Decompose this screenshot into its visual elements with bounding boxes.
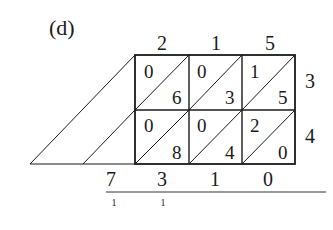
multiplier-digit: 4 bbox=[305, 125, 315, 147]
multiplicand-digit: 5 bbox=[265, 32, 275, 54]
cell-ones-digit: 5 bbox=[278, 87, 288, 108]
multiplicand-digit: 2 bbox=[157, 32, 167, 54]
multiplicand-digit: 1 bbox=[211, 32, 221, 54]
lattice-extension-lines bbox=[30, 55, 135, 164]
cell-tens-digit: 0 bbox=[197, 115, 207, 136]
cell-tens-digit: 2 bbox=[250, 115, 260, 136]
result-digit: 1 bbox=[210, 168, 220, 190]
lattice-grid bbox=[135, 55, 295, 164]
cell-tens-digit: 0 bbox=[144, 115, 154, 136]
cell-tens-digit: 0 bbox=[197, 61, 207, 82]
cell-ones-digit: 8 bbox=[172, 142, 182, 163]
result-digit: 3 bbox=[157, 168, 167, 190]
cell-ones-digit: 0 bbox=[278, 142, 288, 163]
carry-digit: 1 bbox=[161, 197, 166, 208]
figure-label: (d) bbox=[49, 15, 75, 40]
result-digit: 0 bbox=[263, 168, 273, 190]
cell-tens-digit: 1 bbox=[250, 61, 260, 82]
multiplier-digit: 3 bbox=[305, 70, 315, 92]
result-digit: 7 bbox=[106, 168, 116, 190]
cell-ones-digit: 6 bbox=[172, 87, 182, 108]
carry-digit: 1 bbox=[112, 197, 117, 208]
cell-ones-digit: 4 bbox=[225, 142, 235, 163]
lattice-multiplication-diagram: (d) 2 1 5 3 4 0 6 0 3 1 5 0 8 0 4 2 0 7 … bbox=[0, 0, 333, 230]
cell-ones-digit: 3 bbox=[225, 87, 235, 108]
cell-tens-digit: 0 bbox=[144, 61, 154, 82]
